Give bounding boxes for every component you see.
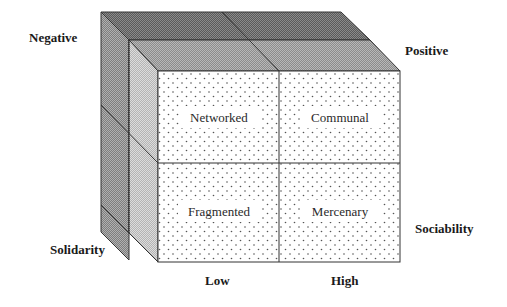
label-low: Low (205, 273, 230, 289)
label-positive: Positive (405, 43, 448, 59)
cell-communal: Communal (311, 110, 369, 125)
label-high: High (331, 273, 358, 289)
label-negative: Negative (29, 30, 77, 46)
cell-mercenary: Mercenary (312, 204, 369, 219)
label-solidarity: Solidarity (50, 242, 105, 258)
cell-networked: Networked (190, 110, 248, 125)
label-sociability: Sociability (415, 221, 474, 237)
side-face-front (129, 40, 158, 262)
cell-fragmented: Fragmented (188, 204, 251, 219)
side-face-back (101, 12, 129, 260)
